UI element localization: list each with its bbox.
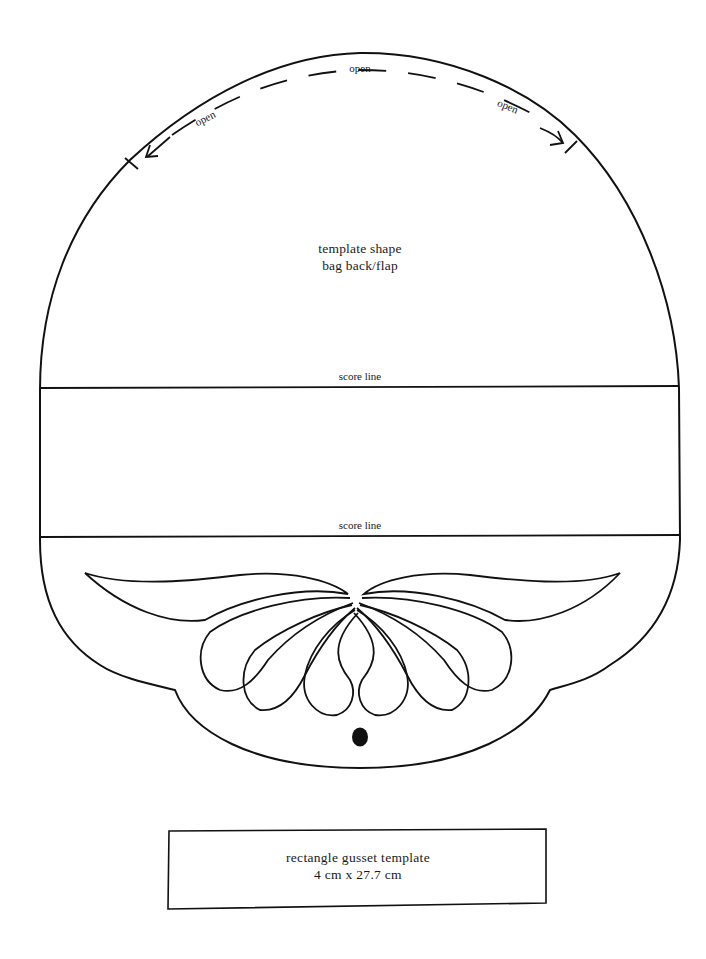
bag-outline — [40, 53, 680, 768]
open-label-top: open — [330, 62, 390, 74]
score-line-label-top: score line — [310, 370, 410, 382]
right-open-tick — [565, 141, 577, 153]
gusset-label: rectangle gusset template 4 cm x 27.7 cm — [208, 849, 508, 883]
right-arrow-icon — [540, 128, 563, 145]
score-line-bottom — [40, 535, 679, 537]
template-title-line2: bag back/flap — [260, 257, 460, 274]
wing-ornament — [85, 573, 620, 715]
closure-hole-dot — [352, 728, 368, 747]
score-line-label-bottom: score line — [310, 519, 410, 531]
gusset-dimensions: 4 cm x 27.7 cm — [208, 866, 508, 883]
bag-template-drawing — [0, 0, 706, 959]
left-arrow-icon — [146, 137, 170, 157]
template-title-line1: template shape — [260, 240, 460, 257]
score-line-top — [40, 386, 679, 388]
template-title: template shape bag back/flap — [260, 240, 460, 274]
gusset-title: rectangle gusset template — [208, 849, 508, 866]
